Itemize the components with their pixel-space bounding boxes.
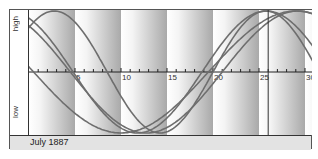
y-label-high: high (11, 16, 27, 31)
x-tick-label: 30 (306, 73, 312, 82)
y-label-low: low (11, 106, 27, 118)
month-footer: July 1887 (10, 135, 311, 150)
x-tick-label: 10 (122, 73, 131, 82)
plot-area: 51015202530 (29, 10, 312, 135)
month-label: July 1887 (30, 137, 69, 147)
y-label-column: high low (10, 10, 29, 135)
x-tick-label: 15 (168, 73, 177, 82)
chart-svg: 51015202530 (29, 10, 312, 135)
biorhythm-chart: high low 51015202530 July 1887 (9, 9, 312, 149)
